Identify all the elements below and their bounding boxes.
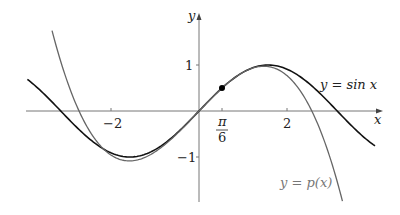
tick-label-pi: π [217, 114, 227, 129]
sin-curve-label: y = sin x [319, 77, 378, 92]
p-curve-label: y = p(x) [279, 175, 332, 190]
marked-point [219, 85, 225, 91]
tick-label-1: 1 [185, 58, 193, 73]
tick-label-2: 2 [283, 116, 291, 131]
tick-label-neg1: −1 [177, 150, 196, 165]
y-axis-arrow-icon [197, 13, 202, 20]
tick-label-neg2: −2 [103, 116, 122, 131]
tick-label-6: 6 [218, 130, 226, 145]
x-axis-label: x [374, 112, 382, 127]
chart: −2 π 6 2 1 −1 x y y = sin x y = p(x) [0, 0, 400, 215]
y-axis-label: y [187, 8, 196, 23]
